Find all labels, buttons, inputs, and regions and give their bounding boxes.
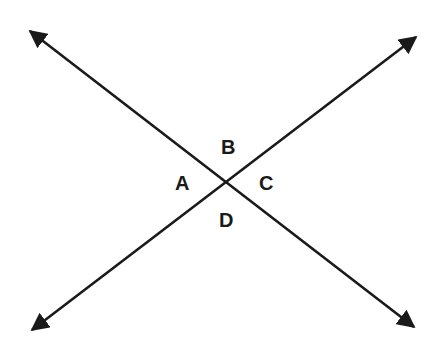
diagram-canvas: A B C D <box>0 0 434 349</box>
angle-label-a: A <box>175 172 189 194</box>
line-1 <box>30 31 414 327</box>
line-2 <box>32 37 416 330</box>
intersecting-lines-diagram: A B C D <box>0 0 434 349</box>
angle-label-b: B <box>221 136 235 158</box>
angle-label-d: D <box>219 209 233 231</box>
angle-label-c: C <box>259 172 273 194</box>
